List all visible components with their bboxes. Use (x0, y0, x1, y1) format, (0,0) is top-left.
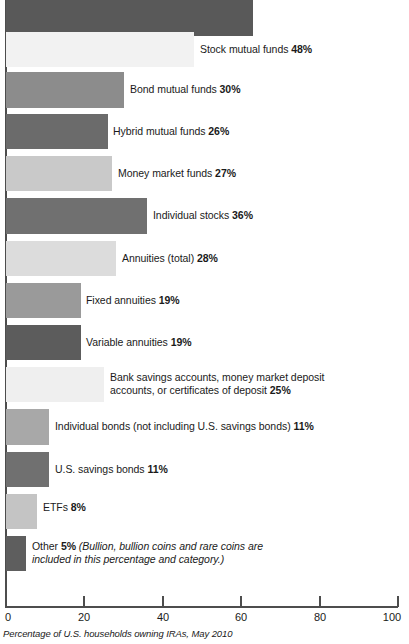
label-text: Money market funds (118, 167, 215, 179)
bar-row[interactable]: Bank savings accounts, money market depo… (0, 367, 409, 402)
bar-individual-bonds (6, 409, 49, 445)
bar-row[interactable]: U.S. savings bonds 11% (0, 452, 409, 487)
label-text: ETFs (43, 501, 71, 513)
label-text: Fixed annuities (86, 294, 159, 306)
label-value: 48% (291, 43, 312, 55)
label-text: Individual bonds (not including U.S. sav… (55, 420, 293, 432)
bar-variable-annuities (6, 325, 81, 360)
label-text: Individual stocks (153, 209, 232, 221)
x-axis-label-20: 20 (78, 611, 90, 623)
bar-etfs (6, 494, 37, 529)
label-value: 11% (293, 420, 313, 432)
label-value: 30% (220, 83, 241, 95)
bar-row[interactable]: Annuities (total) 28% (0, 241, 409, 276)
bar-label-hybrid-mutual-funds: Hybrid mutual funds 26% (113, 125, 229, 138)
bar-bond-mutual-funds (6, 72, 124, 108)
label-text: Bank savings accounts, money market depo… (110, 371, 324, 396)
bar-stock-mutual-funds (6, 32, 194, 67)
x-axis-label-40: 40 (157, 611, 169, 623)
label-value: 26% (208, 125, 229, 137)
bar-label-money-market-funds: Money market funds 27% (118, 167, 236, 180)
bar-label-variable-annuities: Variable annuities 19% (86, 336, 192, 349)
bar-label-other: Other 5% (Bullion, bullion coins and rar… (32, 540, 282, 566)
x-axis-label-80: 80 (314, 611, 326, 623)
bar-row[interactable]: Bond mutual funds 30% (0, 72, 409, 108)
chart-caption: Percentage of U.S. households owning IRA… (3, 628, 232, 639)
bar-row[interactable]: Fixed annuities 19% (0, 283, 409, 318)
bar-label-stock-mutual-funds: Stock mutual funds 48% (200, 43, 312, 56)
label-value: 8% (71, 501, 86, 513)
bar-label-etfs: ETFs 8% (43, 501, 86, 514)
x-axis-line (5, 606, 398, 608)
label-value: 5% (61, 540, 76, 552)
bar-row[interactable]: Money market funds 27% (0, 156, 409, 191)
bar-row[interactable]: Individual stocks 36% (0, 198, 409, 234)
label-value: 19% (159, 294, 180, 306)
x-axis-label-100: 100 (383, 611, 401, 623)
bar-row[interactable]: Other 5% (Bullion, bullion coins and rar… (0, 536, 409, 571)
label-text: Bond mutual funds (130, 83, 220, 95)
x-axis-tick-20 (83, 596, 85, 607)
plot-area: Mutual funds (total) 63% Stock mutual fu… (0, 0, 409, 592)
horizontal-bar-chart: Mutual funds (total) 63% Stock mutual fu… (0, 0, 409, 644)
bar-label-individual-stocks: Individual stocks 36% (153, 209, 253, 222)
label-text: Variable annuities (86, 336, 171, 348)
bar-bank-savings-accounts (6, 367, 104, 402)
label-value: 19% (171, 336, 192, 348)
bar-row[interactable]: Mutual funds (total) 63% (0, 0, 409, 36)
bar-label-us-savings-bonds: U.S. savings bonds 11% (55, 463, 168, 476)
bar-other (6, 536, 26, 571)
bar-label-bond-mutual-funds: Bond mutual funds 30% (130, 83, 240, 96)
label-text: Stock mutual funds (200, 43, 291, 55)
label-text: U.S. savings bonds (55, 463, 147, 475)
bar-annuities-total (6, 241, 116, 276)
x-axis-tick-40 (162, 596, 164, 607)
bar-individual-stocks (6, 198, 147, 234)
x-axis-tick-80 (319, 596, 321, 607)
label-value: 36% (232, 209, 253, 221)
bar-label-bank-savings-accounts: Bank savings accounts, money market depo… (110, 371, 340, 397)
bar-row[interactable]: Hybrid mutual funds 26% (0, 114, 409, 149)
bar-us-savings-bonds (6, 452, 49, 487)
bar-row[interactable]: Variable annuities 19% (0, 325, 409, 360)
label-text: Annuities (total) (122, 252, 197, 264)
bar-hybrid-mutual-funds (6, 114, 108, 149)
x-axis-tick-60 (240, 596, 242, 607)
label-value: 27% (215, 167, 236, 179)
label-value: 11% (147, 463, 167, 475)
label-text: Hybrid mutual funds (113, 125, 208, 137)
label-value: 25% (270, 384, 291, 396)
bar-mutual-funds-total (6, 0, 253, 36)
x-axis-tick-0 (5, 596, 7, 607)
x-axis-label-0: 0 (5, 611, 11, 623)
label-text: Other (32, 540, 61, 552)
bar-row[interactable]: ETFs 8% (0, 494, 409, 529)
bar-row[interactable]: Individual bonds (not including U.S. sav… (0, 409, 409, 445)
bar-label-fixed-annuities: Fixed annuities 19% (86, 294, 180, 307)
bar-row[interactable]: Stock mutual funds 48% (0, 32, 409, 67)
x-axis-tick-100 (397, 596, 399, 607)
bar-fixed-annuities (6, 283, 81, 318)
label-value: 28% (197, 252, 218, 264)
bar-money-market-funds (6, 156, 112, 191)
x-axis-label-60: 60 (235, 611, 247, 623)
bar-label-individual-bonds: Individual bonds (not including U.S. sav… (55, 420, 314, 433)
bar-label-annuities-total: Annuities (total) 28% (122, 252, 218, 265)
